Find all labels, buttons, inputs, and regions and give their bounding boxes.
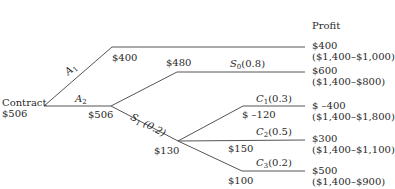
root-value: $506: [2, 108, 27, 119]
cost-c2-label: C2(0.5): [256, 126, 292, 141]
cost-c1-label: C1(0.3): [256, 93, 292, 108]
cost-c3-value: $100: [228, 175, 253, 186]
root-label: Contract: [2, 97, 47, 108]
state-s1-value: $130: [154, 145, 179, 156]
outcome-c2-profit: $300: [312, 133, 337, 144]
decision-a2-label: A2: [75, 93, 87, 108]
outcome-c2-calc: ($1,400–$1,100): [312, 144, 395, 155]
outcome-c1-profit: $ –400: [312, 100, 346, 111]
state-s0-label: S0(0.8): [230, 58, 265, 73]
cost-c3-label: C3(0.2): [256, 157, 292, 172]
decision-a2-value: $506: [88, 109, 113, 120]
outcome-c3-profit: $500: [312, 165, 337, 176]
cost-c1-value: $ –120: [242, 109, 276, 120]
decision-a1-value: $400: [112, 52, 137, 63]
outcome-s0-profit: $600: [312, 65, 337, 76]
outcome-a1-profit: $400: [312, 40, 337, 51]
profit-header: Profit: [312, 20, 340, 31]
outcome-c3-calc: ($1,400–$900): [312, 176, 385, 187]
outcome-c1-calc: ($1,400–$1,800): [312, 111, 395, 122]
outcome-a1-calc: ($1,400–$1,000): [312, 51, 395, 62]
outcome-s0-calc: ($1,400–$800): [312, 76, 385, 87]
cost-c2-value: $150: [228, 143, 253, 154]
state-s0-value: $480: [166, 57, 191, 68]
